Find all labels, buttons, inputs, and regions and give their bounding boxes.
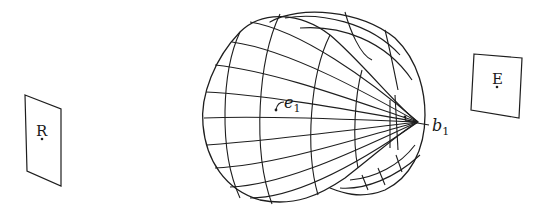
plane-e-label: E (492, 70, 503, 88)
diagram-canvas: R E (0, 0, 546, 221)
plane-r-label: R (36, 122, 48, 140)
point-e1: e1 (275, 93, 301, 115)
e1-leader (276, 102, 284, 110)
plane-r-frame (25, 95, 61, 186)
b1-label: b1 (432, 116, 449, 138)
plane-e-point (496, 86, 499, 89)
plane-r-point (41, 138, 44, 141)
e1-label: e1 (284, 93, 300, 115)
plane-e: E (471, 54, 522, 118)
plane-r: R (25, 95, 61, 186)
